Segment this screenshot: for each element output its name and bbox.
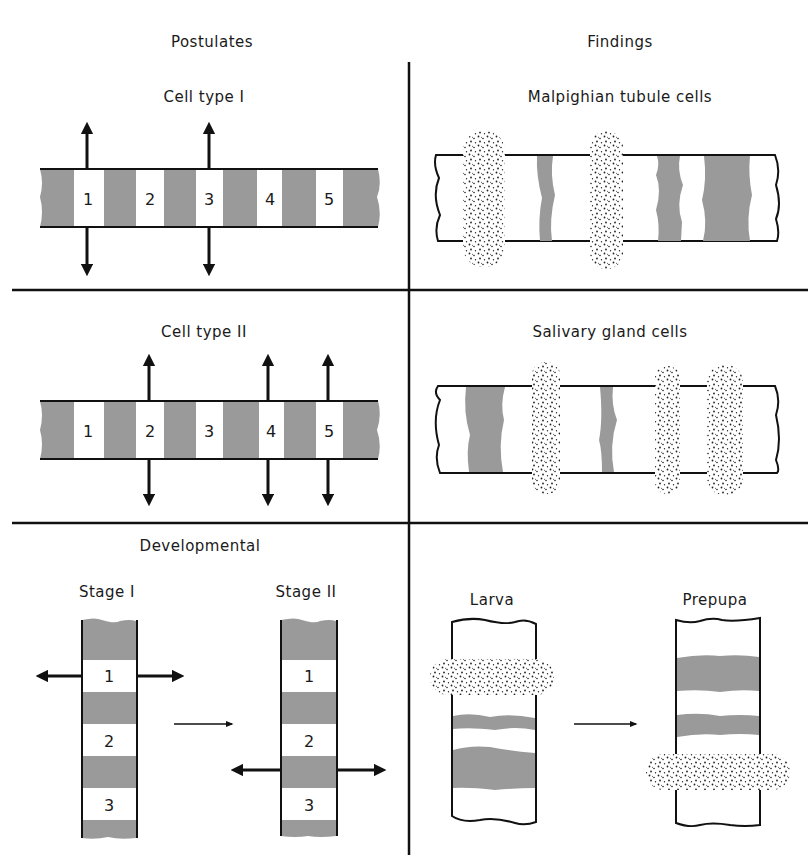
- puff: [655, 366, 680, 494]
- salivary-panel: Salivary gland cells: [436, 323, 779, 495]
- band-label: 5: [324, 422, 334, 441]
- band-label: 3: [304, 796, 314, 815]
- malpighian-title: Malpighian tubule cells: [528, 88, 712, 106]
- larva-prepupa-panel: Larva Prepupa: [430, 591, 790, 826]
- band-label: 1: [304, 667, 314, 686]
- larva-title: Larva: [470, 591, 514, 609]
- band-label: 1: [104, 667, 114, 686]
- puff: [646, 754, 790, 790]
- band-label: 2: [145, 422, 155, 441]
- prepupa-title: Prepupa: [682, 591, 747, 609]
- cell-type-1-panel: Cell type I 1 2 3 4 5: [40, 88, 380, 270]
- puff: [463, 131, 505, 267]
- puff: [532, 362, 560, 494]
- band-label: 3: [204, 422, 214, 441]
- band-label: 1: [83, 422, 93, 441]
- band-label: 3: [104, 796, 114, 815]
- puff: [590, 131, 623, 269]
- band-label: 3: [204, 190, 214, 209]
- prepupa-strip: [646, 618, 790, 826]
- band-label: 5: [324, 190, 334, 209]
- developmental-panel: Developmental Stage I 1 2 3 Stage II: [42, 537, 380, 839]
- puff: [707, 365, 743, 495]
- larva-strip: [430, 619, 554, 824]
- band-label: 4: [266, 422, 276, 441]
- band-label: 4: [265, 190, 275, 209]
- puff: [430, 659, 554, 695]
- cell-type-2-panel: Cell type II 1 2 3 4 5: [40, 323, 380, 500]
- developmental-title: Developmental: [140, 537, 261, 555]
- chromosome-puffing-diagram: Postulates Findings Cell type I 1 2 3 4 …: [0, 0, 812, 855]
- salivary-title: Salivary gland cells: [532, 323, 687, 341]
- stage-1-title: Stage I: [79, 583, 135, 601]
- band-label: 1: [83, 190, 93, 209]
- band-label: 2: [304, 732, 314, 751]
- findings-header: Findings: [587, 33, 653, 51]
- band-label: 2: [104, 732, 114, 751]
- cell-type-1-title: Cell type I: [163, 88, 244, 106]
- stage-2-title: Stage II: [276, 583, 337, 601]
- malpighian-panel: Malpighian tubule cells: [435, 88, 779, 269]
- cell-type-2-title: Cell type II: [161, 323, 247, 341]
- band-label: 2: [145, 190, 155, 209]
- postulates-header: Postulates: [171, 33, 253, 51]
